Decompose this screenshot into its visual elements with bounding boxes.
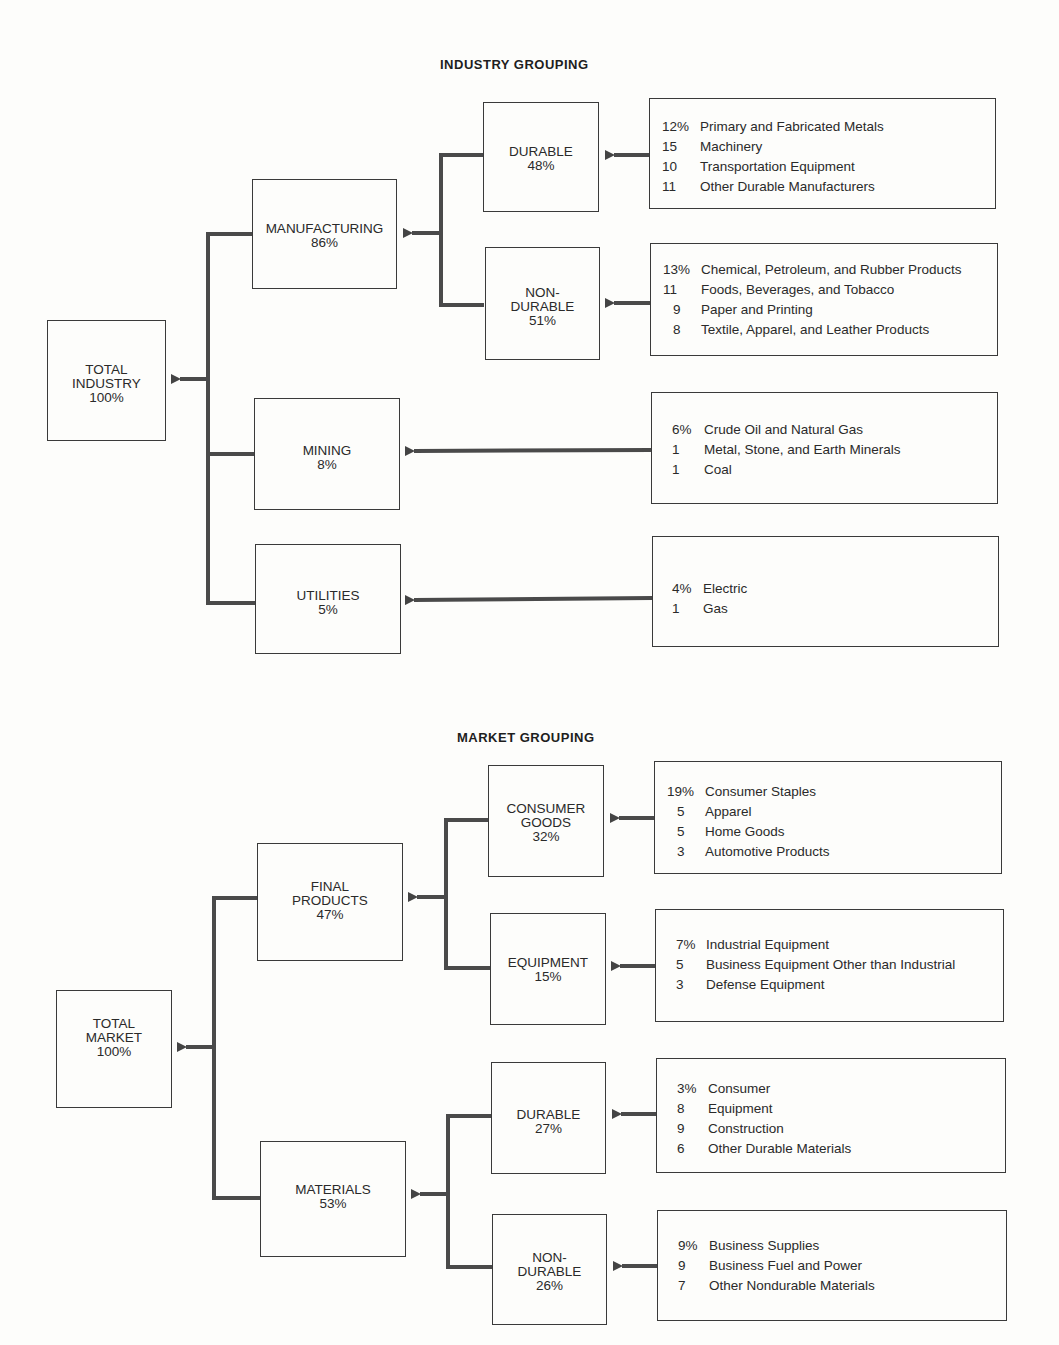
detail-row: 6%Crude Oil and Natural Gas	[672, 420, 997, 440]
node-pct: 15%	[534, 970, 561, 984]
node-label: NON- DURABLE	[518, 1251, 582, 1279]
detail-row: 12%Primary and Fabricated Metals	[662, 117, 995, 137]
detail-name: Textile, Apparel, and Leather Products	[701, 320, 929, 340]
detail-row: 1Metal, Stone, and Earth Minerals	[672, 440, 997, 460]
node-pct: 100%	[89, 391, 124, 405]
detail-equipment: 7%Industrial Equipment 5Business Equipme…	[655, 909, 1004, 1022]
detail-consumer-goods: 19%Consumer Staples 5Apparel 5Home Goods…	[654, 761, 1002, 874]
detail-value: 1	[672, 599, 703, 619]
detail-row: 7%Industrial Equipment	[676, 935, 1003, 955]
detail-row: 3%Consumer	[677, 1079, 1005, 1099]
node-consumer-goods: CONSUMER GOODS 32%	[488, 765, 604, 877]
detail-name: Machinery	[700, 137, 762, 157]
market-grouping-title: MARKET GROUPING	[457, 730, 595, 745]
node-total-industry: TOTAL INDUSTRY 100%	[47, 320, 166, 441]
node-durable: DURABLE 48%	[483, 102, 599, 212]
detail-name: Business Supplies	[709, 1236, 819, 1256]
detail-value: 11	[662, 177, 700, 197]
node-equipment: EQUIPMENT 15%	[490, 913, 606, 1025]
node-pct: 32%	[532, 830, 559, 844]
detail-name: Primary and Fabricated Metals	[700, 117, 884, 137]
node-materials: MATERIALS 53%	[260, 1141, 406, 1257]
node-pct: 100%	[97, 1045, 132, 1059]
node-label: MATERIALS	[295, 1183, 371, 1197]
detail-value: 5	[667, 822, 705, 842]
detail-row: 1Coal	[672, 460, 997, 480]
detail-durable: 12%Primary and Fabricated Metals 15Machi…	[649, 98, 996, 209]
detail-utilities: 4%Electric 1Gas	[652, 536, 999, 647]
node-final-products: FINAL PRODUCTS 47%	[257, 843, 403, 961]
detail-row: 19%Consumer Staples	[667, 782, 1001, 802]
detail-value: 9	[663, 300, 701, 320]
node-label: TOTAL MARKET	[86, 1017, 142, 1045]
detail-value: 3	[676, 975, 706, 995]
detail-name: Home Goods	[705, 822, 785, 842]
detail-name: Other Durable Materials	[708, 1139, 851, 1159]
node-pct: 51%	[529, 314, 556, 328]
detail-row: 3Automotive Products	[667, 842, 1001, 862]
detail-value: 10	[662, 157, 700, 177]
detail-name: Gas	[703, 599, 728, 619]
detail-row: 6Other Durable Materials	[677, 1139, 1005, 1159]
detail-row: 5Business Equipment Other than Industria…	[676, 955, 1003, 975]
detail-row: 13%Chemical, Petroleum, and Rubber Produ…	[663, 260, 997, 280]
node-pct: 86%	[311, 236, 338, 250]
detail-value: 7	[678, 1276, 709, 1296]
detail-row: 5Apparel	[667, 802, 1001, 822]
node-pct: 8%	[317, 458, 337, 472]
node-pct: 5%	[318, 603, 338, 617]
detail-value: 3	[667, 842, 705, 862]
detail-value: 8	[663, 320, 701, 340]
detail-value: 6%	[672, 420, 704, 440]
node-label: TOTAL INDUSTRY	[72, 363, 141, 391]
detail-value: 11	[663, 280, 701, 300]
detail-value: 6	[677, 1139, 708, 1159]
industry-grouping-title: INDUSTRY GROUPING	[440, 57, 589, 72]
detail-row: 7Other Nondurable Materials	[678, 1276, 1006, 1296]
node-label: NON- DURABLE	[511, 286, 575, 314]
detail-value: 9%	[678, 1236, 709, 1256]
detail-value: 9	[678, 1256, 709, 1276]
node-label: MINING	[303, 444, 352, 458]
node-nondurable: NON- DURABLE 51%	[485, 247, 600, 360]
node-label: FINAL PRODUCTS	[292, 880, 368, 908]
bracket-total-market	[214, 898, 260, 1198]
node-materials-nondurable: NON- DURABLE 26%	[492, 1214, 607, 1325]
bracket-total-industry	[208, 234, 255, 603]
detail-name: Crude Oil and Natural Gas	[704, 420, 863, 440]
detail-value: 12%	[662, 117, 700, 137]
detail-value: 3%	[677, 1079, 708, 1099]
detail-name: Electric	[703, 579, 747, 599]
detail-row: 4%Electric	[672, 579, 998, 599]
node-label: MANUFACTURING	[266, 222, 384, 236]
node-pct: 47%	[316, 908, 343, 922]
detail-row: 3Defense Equipment	[676, 975, 1003, 995]
arrow-mining-detail	[414, 450, 652, 451]
detail-row: 1Gas	[672, 599, 998, 619]
detail-name: Consumer Staples	[705, 782, 816, 802]
node-pct: 48%	[527, 159, 554, 173]
node-materials-durable: DURABLE 27%	[491, 1062, 606, 1174]
detail-name: Other Nondurable Materials	[709, 1276, 875, 1296]
detail-nondurable: 13%Chemical, Petroleum, and Rubber Produ…	[650, 243, 998, 356]
detail-value: 7%	[676, 935, 706, 955]
node-utilities: UTILITIES 5%	[255, 544, 401, 654]
detail-row: 8Equipment	[677, 1099, 1005, 1119]
detail-value: 13%	[663, 260, 701, 280]
detail-name: Automotive Products	[705, 842, 830, 862]
detail-name: Coal	[704, 460, 732, 480]
bracket-materials	[448, 1116, 492, 1267]
detail-name: Consumer	[708, 1079, 770, 1099]
detail-name: Chemical, Petroleum, and Rubber Products	[701, 260, 961, 280]
node-label: DURABLE	[509, 145, 573, 159]
detail-value: 4%	[672, 579, 703, 599]
node-pct: 26%	[536, 1279, 563, 1293]
detail-value: 8	[677, 1099, 708, 1119]
detail-value: 1	[672, 460, 704, 480]
node-pct: 53%	[319, 1197, 346, 1211]
bracket-final-products	[446, 820, 490, 968]
detail-name: Equipment	[708, 1099, 773, 1119]
detail-name: Apparel	[705, 802, 752, 822]
detail-name: Business Fuel and Power	[709, 1256, 862, 1276]
detail-row: 9Paper and Printing	[663, 300, 997, 320]
